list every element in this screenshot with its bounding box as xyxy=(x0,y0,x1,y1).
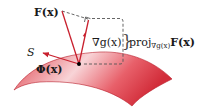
label-projection: proj∇g(x)F(x) xyxy=(129,37,195,50)
proj-subscript: ∇g(x) xyxy=(151,42,170,50)
base-point xyxy=(77,62,81,66)
label-grad-g: ∇g(x) xyxy=(92,37,122,48)
label-phi: Φ(x) xyxy=(36,64,63,75)
right-angle-marker xyxy=(85,17,91,22)
proj-prefix: proj xyxy=(129,36,151,49)
proj-suffix: F(x) xyxy=(170,36,195,49)
surface-s xyxy=(14,52,172,106)
label-f: F(x) xyxy=(34,7,59,18)
arrow-head-icon xyxy=(83,32,86,37)
label-surface-s: S xyxy=(27,47,35,58)
